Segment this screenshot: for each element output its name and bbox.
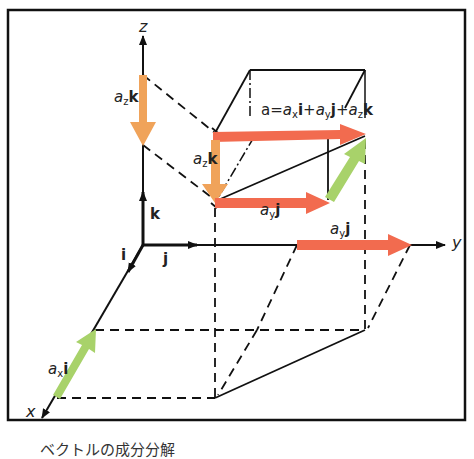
ax-i-label: axi [48, 362, 68, 379]
az-k-arrow-axis [130, 75, 156, 146]
axes [42, 36, 445, 418]
az-k-label-box: azk [193, 152, 217, 169]
i-label: i [121, 248, 126, 263]
i-unit-vector [128, 245, 143, 272]
x-axis-label: x [26, 404, 35, 420]
resultant-a-arrow [213, 124, 366, 145]
ax-i-arrow-box [325, 138, 366, 202]
ay-j-arrow-axis [297, 234, 412, 256]
y-axis-label: y [452, 235, 461, 251]
j-label: j [163, 252, 168, 267]
dashed-construction-lines [57, 75, 410, 398]
component-arrows [53, 75, 412, 399]
k-label: k [150, 207, 160, 222]
figure-caption: ベクトルの成分分解 [40, 438, 175, 459]
az-k-label-axis: azk [114, 90, 138, 107]
ay-j-label-axis: ayj [330, 222, 350, 239]
ay-j-label-box: ayj [260, 203, 280, 220]
z-axis-label: z [139, 19, 147, 35]
resultant-equation: a=axi+ayj+azk [261, 103, 373, 120]
